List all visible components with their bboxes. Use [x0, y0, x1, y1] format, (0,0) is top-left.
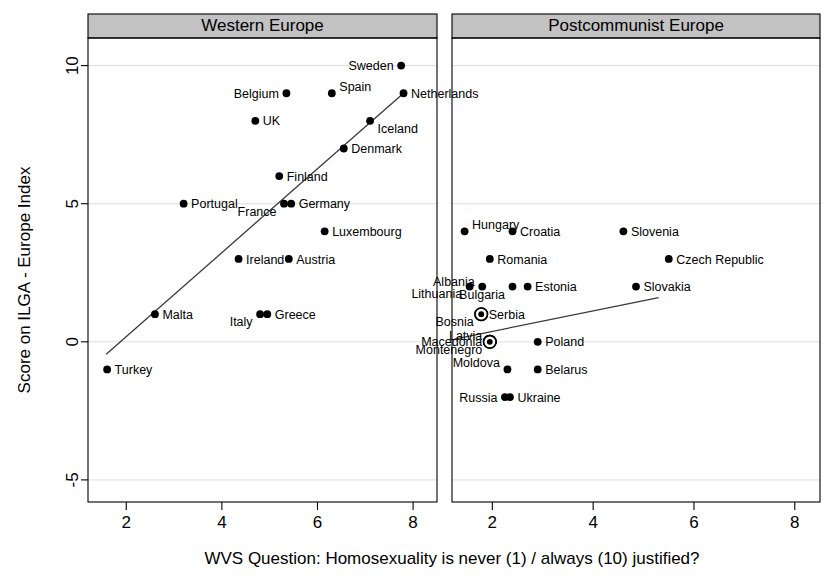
x-tick-label: 8: [408, 513, 417, 532]
point-marker: [280, 200, 288, 208]
y-axis: -50510: [63, 56, 88, 487]
data-point[interactable]: Luxembourg: [321, 225, 402, 239]
data-point[interactable]: Finland: [275, 170, 327, 184]
data-point[interactable]: France: [238, 200, 288, 219]
point-marker: [287, 200, 295, 208]
point-label: Romania: [497, 253, 547, 267]
point-label: Turkey: [115, 363, 153, 377]
point-label: Spain: [339, 80, 371, 94]
y-tick-label: 0: [63, 337, 82, 346]
point-label: Denmark: [351, 142, 402, 156]
data-point[interactable]: Spain: [328, 80, 371, 97]
data-point[interactable]: Slovakia: [632, 280, 691, 294]
point-marker: [328, 89, 336, 97]
point-label: Malta: [162, 308, 193, 322]
x-axis-title: WVS Question: Homosexuality is never (1)…: [204, 549, 699, 568]
point-marker: [180, 200, 188, 208]
point-marker: [251, 117, 259, 125]
point-label: Bosnia: [436, 315, 474, 329]
data-point[interactable]: Turkey: [103, 363, 153, 377]
point-marker: [478, 283, 486, 291]
data-point[interactable]: Slovenia: [619, 225, 678, 239]
point-label: Germany: [299, 197, 351, 211]
point-marker: [478, 311, 484, 317]
data-point[interactable]: Serbia: [475, 308, 525, 322]
data-point[interactable]: Netherlands: [400, 87, 479, 101]
data-point[interactable]: Portugal: [180, 197, 238, 211]
point-label: Lithuania: [411, 287, 462, 301]
point-label: Luxembourg: [332, 225, 402, 239]
data-point[interactable]: Estonia: [524, 280, 577, 294]
x-tick-label: 8: [790, 513, 799, 532]
point-label: Moldova: [453, 356, 500, 370]
point-marker: [509, 283, 517, 291]
point-label: Slovenia: [631, 225, 679, 239]
y-axis-title: Score on ILGA - Europe Index: [15, 166, 34, 393]
panel-title-western-europe: Western Europe: [201, 16, 324, 35]
point-marker: [619, 227, 627, 235]
point-label: Belarus: [545, 363, 587, 377]
data-point[interactable]: Italy: [230, 310, 264, 329]
data-point[interactable]: Moldova: [453, 356, 512, 373]
chart-canvas: Score on ILGA - Europe Index WVS Questio…: [0, 0, 832, 579]
data-point[interactable]: Sweden: [348, 59, 405, 73]
point-label: Slovakia: [644, 280, 691, 294]
point-marker: [534, 366, 542, 374]
x-tick-label: 4: [217, 513, 226, 532]
point-marker: [397, 62, 405, 70]
data-point[interactable]: Poland: [534, 335, 584, 349]
x-tick-label: 2: [488, 513, 497, 532]
scatter-plot-figure: Score on ILGA - Europe Index WVS Questio…: [0, 0, 832, 579]
point-label: Greece: [275, 308, 316, 322]
data-point[interactable]: Russia: [459, 391, 509, 405]
point-label: Poland: [545, 335, 584, 349]
point-label: Serbia: [489, 308, 525, 322]
data-point[interactable]: Ireland: [235, 253, 285, 267]
point-label: Belgium: [234, 87, 279, 101]
point-label: Ireland: [246, 253, 284, 267]
data-point[interactable]: Romania: [486, 253, 547, 267]
panel-title-postcommunist-europe: Postcommunist Europe: [548, 16, 724, 35]
point-label: Italy: [230, 315, 254, 329]
data-point[interactable]: Germany: [287, 197, 351, 211]
data-point[interactable]: Austria: [285, 253, 335, 267]
point-label: Croatia: [520, 225, 560, 239]
point-marker: [524, 283, 532, 291]
data-point[interactable]: Belgium: [234, 87, 291, 101]
panel-border: [452, 38, 820, 502]
point-marker: [151, 310, 159, 318]
point-marker: [632, 283, 640, 291]
y-tick-label: -5: [63, 472, 82, 487]
panel-western-europe: Western Europe2468SwedenSpainBelgiumNeth…: [88, 14, 478, 532]
y-tick-label: 5: [63, 199, 82, 208]
point-marker: [285, 255, 293, 263]
point-label: Latvia: [449, 329, 482, 343]
data-point[interactable]: Czech Republic: [665, 253, 764, 267]
data-point[interactable]: Greece: [263, 308, 315, 322]
point-label: Albania: [433, 275, 475, 289]
data-point[interactable]: Belarus: [534, 363, 588, 377]
point-label: Austria: [296, 253, 335, 267]
point-label: Ukraine: [517, 391, 560, 405]
point-label: Iceland: [378, 122, 418, 136]
x-tick-label: 4: [588, 513, 597, 532]
point-marker: [263, 310, 271, 318]
point-label: Netherlands: [411, 87, 478, 101]
data-point[interactable]: Denmark: [340, 142, 403, 156]
point-marker: [506, 393, 514, 401]
data-point[interactable]: UK: [251, 114, 280, 128]
data-point[interactable]: Ukraine: [506, 391, 561, 405]
point-marker: [235, 255, 243, 263]
y-tick-label: 10: [63, 56, 82, 75]
x-tick-label: 6: [689, 513, 698, 532]
panels-group: Western Europe2468SwedenSpainBelgiumNeth…: [88, 14, 820, 532]
point-label: Czech Republic: [676, 253, 764, 267]
point-marker: [487, 339, 493, 345]
point-label: Portugal: [191, 197, 238, 211]
point-marker: [665, 255, 673, 263]
point-marker: [340, 145, 348, 153]
x-tick-label: 2: [122, 513, 131, 532]
point-label: France: [238, 205, 277, 219]
point-label: Estonia: [535, 280, 577, 294]
point-marker: [509, 227, 517, 235]
